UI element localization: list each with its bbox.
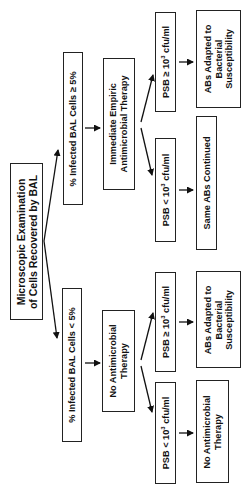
- outcome-upper-1-line-2: Bacterial: [213, 25, 224, 94]
- outcome-lower-2-line-1: No Antimicrobial: [202, 395, 213, 468]
- psb-high-upper-suffix: cfu/ml: [160, 26, 170, 56]
- root-line-1: Microscopic Examination: [14, 174, 26, 308]
- psb-low-lower: PSB < 103 cfu/ml: [155, 382, 176, 484]
- outcome-abs-adapted-upper: ABs Adapted to Bacterial Susceptibility: [196, 10, 241, 108]
- action-immediate-empiric-therapy: Immediate Empiric Antimicrobial Therapy: [103, 58, 135, 190]
- psb-low-lower-suffix: cfu/ml: [160, 397, 170, 427]
- outcome-no-antimicrobial-lower: No Antimicrobial Therapy: [196, 380, 229, 483]
- psb-high-upper-exp: 3: [159, 56, 165, 59]
- action-low-line-2: Therapy: [119, 324, 130, 397]
- psb-low-upper-exp: 3: [159, 183, 165, 186]
- root-line-2: of Cells Recovered by BAL: [27, 174, 39, 308]
- action-high-line-1: Immediate Empiric: [108, 76, 119, 173]
- criterion-low-infected-cells: % Infected BAL Cells < 5%: [62, 288, 82, 442]
- outcome-same-abs-continued: Same ABs Continued: [196, 116, 217, 250]
- outcome-abs-adapted-lower: ABs Adapted to Bacterial Susceptibility: [196, 271, 241, 368]
- criterion-low-label: % Infected BAL Cells < 5%: [67, 307, 77, 422]
- action-no-antimicrobial-therapy: No Antimicrobial Therapy: [102, 310, 135, 412]
- psb-high-upper: PSB ≥ 103 cfu/ml: [155, 12, 176, 112]
- action-high-line-2: Antimicrobial Therapy: [119, 76, 130, 173]
- criterion-high-infected-cells: % Infected BAL Cells ≥ 5%: [63, 52, 83, 205]
- psb-low-lower-exp: 3: [159, 426, 165, 429]
- psb-high-lower-prefix: PSB ≥ 10: [160, 319, 170, 358]
- outcome-upper-1-line-1: ABs Adapted to: [203, 25, 214, 94]
- outcome-lower-1-line-1: ABs Adapted to: [203, 285, 214, 354]
- psb-high-lower-suffix: cfu/ml: [160, 286, 170, 316]
- outcome-lower-1-line-2: Bacterial: [213, 285, 224, 354]
- outcome-lower-2-line-2: Therapy: [213, 395, 224, 468]
- psb-low-upper-prefix: PSB < 10: [160, 187, 170, 227]
- psb-low-upper: PSB < 103 cfu/ml: [155, 138, 176, 242]
- psb-high-lower-exp: 3: [159, 316, 165, 319]
- outcome-lower-1-line-3: Susceptibility: [224, 285, 235, 354]
- action-low-line-1: No Antimicrobial: [108, 324, 119, 397]
- psb-high-lower: PSB ≥ 103 cfu/ml: [155, 272, 176, 372]
- psb-low-upper-suffix: cfu/ml: [160, 154, 170, 184]
- outcome-upper-1-line-3: Susceptibility: [224, 25, 235, 94]
- psb-high-upper-prefix: PSB ≥ 10: [160, 59, 170, 98]
- criterion-high-label: % Infected BAL Cells ≥ 5%: [68, 71, 78, 186]
- outcome-same-abs-label: Same ABs Continued: [201, 136, 211, 229]
- psb-low-lower-prefix: PSB < 10: [160, 430, 170, 470]
- root-node-microscopic-examination: Microscopic Examination of Cells Recover…: [10, 163, 43, 320]
